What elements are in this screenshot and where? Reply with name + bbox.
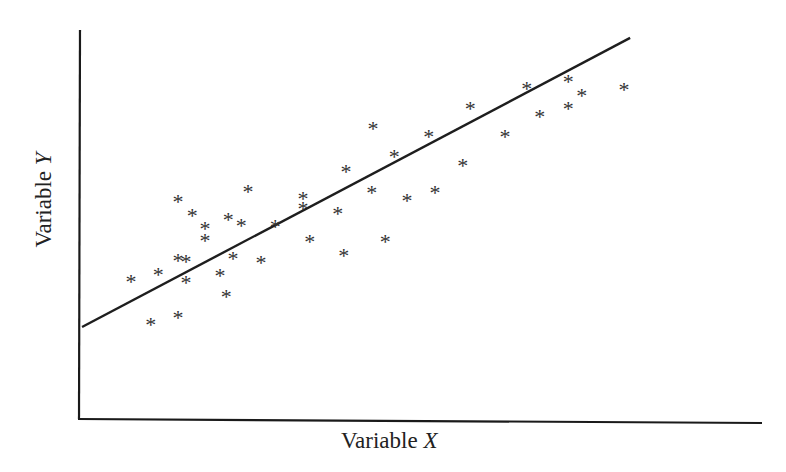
data-point-asterisk: * xyxy=(366,180,377,205)
data-point-asterisk: * xyxy=(145,312,156,337)
y-axis-label: Variable Y xyxy=(31,152,57,247)
data-point-asterisk: * xyxy=(153,262,164,287)
data-point-asterisk: * xyxy=(332,201,343,226)
data-point-asterisk: * xyxy=(340,159,351,184)
data-point-asterisk: * xyxy=(338,243,349,268)
data-point-asterisk: * xyxy=(181,270,192,295)
data-point-asterisk: * xyxy=(172,305,183,330)
data-point-asterisk: * xyxy=(221,284,232,309)
data-point-asterisk: * xyxy=(500,124,511,149)
data-point-asterisk: * xyxy=(255,250,266,275)
data-point-asterisk: * xyxy=(200,228,211,253)
data-point-asterisk: * xyxy=(457,153,468,178)
data-point-asterisk: * xyxy=(563,96,574,121)
data-point-asterisk: * xyxy=(465,96,476,121)
data-point-asterisk: * xyxy=(619,77,630,102)
data-point-asterisk: * xyxy=(380,229,391,254)
data-point-asterisk: * xyxy=(423,124,434,149)
data-point-asterisk: * xyxy=(126,269,137,294)
data-point-asterisk: * xyxy=(389,144,400,169)
data-point-asterisk: * xyxy=(576,83,587,108)
data-point-asterisk: * xyxy=(298,196,309,221)
x-axis-label: Variable X xyxy=(341,428,437,454)
data-point-asterisk: * xyxy=(187,203,198,228)
data-point-asterisk: * xyxy=(236,213,247,238)
data-point-asterisk: * xyxy=(368,116,379,141)
y-axis xyxy=(79,30,80,419)
data-point-asterisk: * xyxy=(563,69,574,94)
data-point-asterisk: * xyxy=(429,180,440,205)
data-point-asterisk: * xyxy=(534,104,545,129)
data-points: ****************************************… xyxy=(126,69,630,337)
data-point-asterisk: * xyxy=(402,188,413,213)
data-point-asterisk: * xyxy=(228,246,239,271)
data-point-asterisk: * xyxy=(172,189,183,214)
regression-line xyxy=(82,38,630,327)
scatter-chart: ****************************************… xyxy=(0,0,786,472)
data-point-asterisk: * xyxy=(304,229,315,254)
x-axis xyxy=(78,419,762,423)
data-point-asterisk: * xyxy=(242,179,253,204)
data-point-asterisk: * xyxy=(521,76,532,101)
data-point-asterisk: * xyxy=(270,214,281,239)
data-point-asterisk: * xyxy=(223,207,234,232)
